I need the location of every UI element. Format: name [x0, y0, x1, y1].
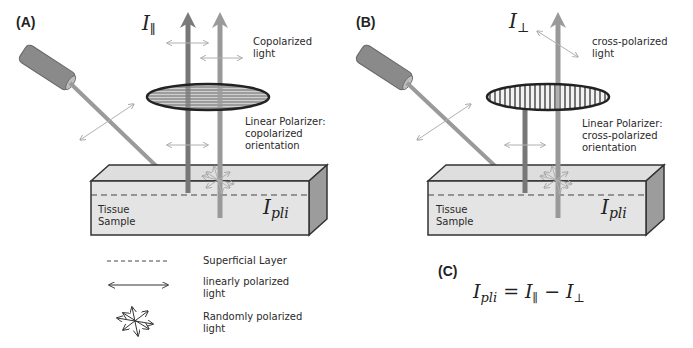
intensity-perpendicular-symbol: I⊥: [508, 9, 529, 35]
polarizer-a: [140, 84, 280, 110]
legend-star-arrows-icon: [117, 307, 153, 336]
intensity-parallel-symbol: I∥: [141, 11, 156, 37]
panel-b: (B): [354, 9, 670, 235]
equation-formula: Ipli=I∥−I⊥: [472, 280, 585, 305]
copolarized-light-label: Copolarized light: [253, 36, 315, 59]
polarizer-b-label: Linear Polarizer: cross-polarized orient…: [582, 118, 666, 153]
panel-a: (A): [16, 11, 329, 235]
panel-a-label: (A): [16, 14, 35, 30]
legend-random-label: Randomly polarized light: [203, 311, 305, 334]
light-source-icon: [354, 43, 415, 92]
legend-linear-label: linearly polarized light: [203, 276, 292, 299]
tissue-sample-label: Tissue Sample: [435, 204, 474, 227]
polarizer-b: [487, 82, 609, 112]
legend-superficial-layer-label: Superficial Layer: [203, 255, 288, 266]
panel-b-label: (B): [356, 14, 375, 30]
light-source-icon: [17, 43, 78, 92]
polarization-diagram: (A): [0, 0, 693, 348]
polarizer-a-label: Linear Polarizer: copolarized orientatio…: [245, 116, 329, 151]
cross-polarized-light-label: cross-polarized light: [592, 36, 671, 59]
legend: Superficial Layer linearly polarized lig…: [107, 255, 305, 336]
tissue-sample-label: Tissue Sample: [97, 204, 136, 227]
equation: (C) Ipli=I∥−I⊥: [438, 263, 585, 305]
panel-c-label: (C): [438, 263, 457, 279]
